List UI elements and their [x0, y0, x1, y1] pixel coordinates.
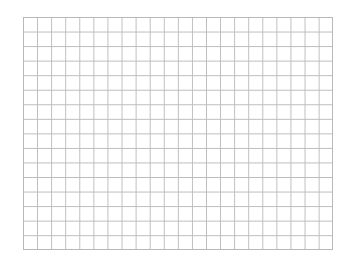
grid-paper: [23, 17, 333, 250]
